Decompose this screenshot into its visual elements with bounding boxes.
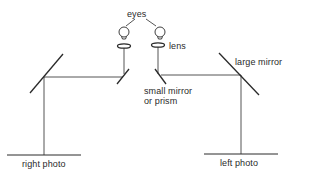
right-lens-icon <box>152 43 165 47</box>
small-mirror-label-line2: or prism <box>144 96 177 106</box>
left-lens-icon <box>118 44 131 48</box>
eyes-label: eyes <box>127 9 146 19</box>
left-small-mirror-icon <box>117 69 129 84</box>
left-eye-icon <box>119 27 129 39</box>
lens-label: lens <box>169 41 186 51</box>
small-mirror-label-line1: small mirror <box>144 86 192 96</box>
right-small-mirror-icon <box>155 69 166 84</box>
eyes-pointer-right <box>146 19 156 26</box>
left-photo-label: left photo <box>220 158 258 168</box>
large-mirror-label: large mirror <box>235 57 282 67</box>
right-photo-label: right photo <box>22 159 66 169</box>
right-eye-icon <box>155 27 165 39</box>
eyes-pointer-left <box>126 19 135 26</box>
left-large-mirror-icon <box>30 54 63 93</box>
